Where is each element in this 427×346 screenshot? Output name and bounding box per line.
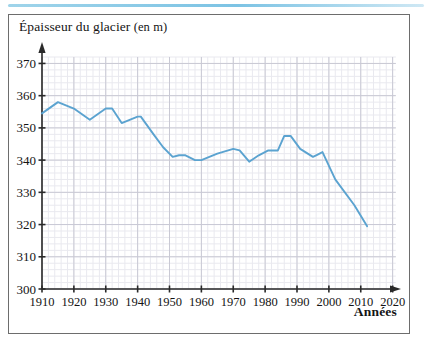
- y-axis-tick-labels: 300310320330340350360370: [17, 56, 37, 297]
- svg-text:1910: 1910: [30, 295, 55, 309]
- x-axis-tick-labels: 1910192019301940195019601970198019902000…: [30, 295, 406, 309]
- svg-text:360: 360: [17, 88, 37, 103]
- svg-text:340: 340: [17, 153, 37, 168]
- svg-text:330: 330: [17, 185, 37, 200]
- svg-text:2000: 2000: [316, 295, 341, 309]
- figure-box: Épaisseur du glacier (en m) 300310320330…: [8, 14, 410, 334]
- svg-text:370: 370: [17, 56, 37, 71]
- svg-text:1960: 1960: [189, 295, 214, 309]
- x-axis-title: Années: [354, 304, 397, 320]
- svg-text:350: 350: [17, 120, 37, 135]
- chart-plot: 300310320330340350360370 191019201930194…: [9, 15, 411, 335]
- svg-text:1920: 1920: [61, 295, 86, 309]
- top-decorative-rule: [8, 4, 424, 7]
- svg-text:310: 310: [17, 249, 37, 264]
- svg-text:1940: 1940: [125, 295, 150, 309]
- svg-text:1990: 1990: [285, 295, 310, 309]
- svg-text:1980: 1980: [253, 295, 278, 309]
- svg-text:1950: 1950: [157, 295, 182, 309]
- grid-major-horizontal: [42, 63, 396, 289]
- grid-minor-horizontal: [42, 57, 396, 289]
- svg-text:1930: 1930: [93, 295, 118, 309]
- data-series-group: [42, 102, 367, 226]
- svg-text:320: 320: [17, 217, 37, 232]
- page-canvas: Épaisseur du glacier (en m) 300310320330…: [0, 0, 427, 346]
- svg-text:1970: 1970: [221, 295, 246, 309]
